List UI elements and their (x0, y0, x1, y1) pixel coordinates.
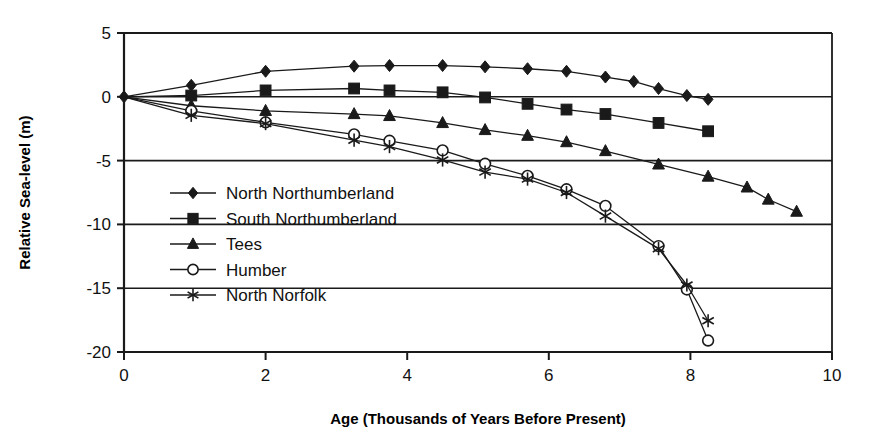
legend-item-tees[interactable]: Tees (170, 235, 262, 254)
asterisk-ray (708, 321, 714, 324)
legend-item-north-northumberland[interactable]: North Northumberland (170, 184, 394, 203)
series-north-northumberland (119, 60, 713, 106)
series-north-norfolk (124, 97, 714, 328)
chart-canvas: 50-5-10-15-200246810Age (Thousands of Ye… (0, 0, 885, 441)
marker-filled-diamond (480, 61, 490, 73)
x-axis-ticks: 0246810 (119, 352, 841, 385)
square-icon (260, 85, 271, 96)
marker-filled-diamond (682, 90, 692, 102)
marker-filled-diamond (562, 65, 572, 77)
marker-filled-diamond (654, 83, 664, 95)
diamond-icon (601, 71, 611, 83)
square-icon (349, 83, 360, 94)
diamond-icon (186, 79, 196, 91)
legend-label: Tees (226, 235, 262, 254)
y-axis-label: Relative Sea-level (m) (16, 115, 33, 269)
asterisk-ray (600, 216, 606, 219)
square-icon (561, 104, 572, 115)
marker-filled-diamond (523, 63, 533, 75)
x-tick-label-10: 10 (823, 366, 842, 385)
y-tick-label--20: -20 (86, 343, 111, 362)
asterisk-ray (605, 213, 611, 216)
marker-filled-triangle (187, 238, 198, 248)
asterisk-ray (479, 172, 485, 175)
x-tick-label-8: 8 (686, 366, 695, 385)
asterisk-ray (443, 157, 449, 160)
square-icon (480, 92, 491, 103)
triangle-icon (791, 205, 803, 216)
diamond-icon (188, 187, 197, 198)
x-tick-label-2: 2 (261, 366, 270, 385)
triangle-icon (762, 193, 774, 204)
x-tick-label-4: 4 (402, 366, 411, 385)
y-tick-label--5: -5 (96, 152, 111, 171)
marker-filled-diamond (438, 60, 448, 72)
triangle-icon (187, 238, 198, 248)
legend-item-south-northumberland[interactable]: South Northumberland (170, 210, 397, 229)
marker-filled-triangle (348, 108, 360, 119)
marker-filled-diamond (629, 75, 639, 87)
legend: North NorthumberlandSouth Northumberland… (170, 184, 397, 305)
x-tick-label-6: 6 (544, 366, 553, 385)
marker-filled-diamond (261, 65, 271, 77)
legend-item-humber[interactable]: Humber (170, 261, 287, 280)
asterisk-ray (708, 317, 714, 320)
diamond-icon (654, 83, 664, 95)
asterisk-ray (348, 140, 354, 143)
series-south-northumberland (124, 83, 714, 137)
marker-filled-square (188, 213, 198, 223)
asterisk-ray (384, 147, 390, 150)
y-tick-label-0: 0 (102, 88, 111, 107)
diamond-icon (682, 90, 692, 102)
asterisk-ray (702, 321, 708, 324)
legend-label: Humber (226, 261, 287, 280)
marker-filled-square (561, 104, 572, 115)
marker-filled-triangle (791, 205, 803, 216)
y-tick-label--10: -10 (86, 215, 111, 234)
diamond-icon (438, 60, 448, 72)
diamond-icon (385, 60, 395, 72)
square-icon (188, 213, 198, 223)
diamond-icon (349, 60, 359, 72)
sea-level-chart-figure: 50-5-10-15-200246810Age (Thousands of Ye… (0, 0, 885, 441)
square-icon (437, 87, 448, 98)
square-icon (653, 118, 664, 129)
marker-filled-square (703, 126, 714, 137)
marker-filled-diamond (703, 93, 713, 105)
series-humber (124, 97, 713, 346)
x-tick-label-0: 0 (119, 366, 128, 385)
diamond-icon (261, 65, 271, 77)
circle-icon (188, 264, 198, 274)
asterisk-ray (600, 213, 606, 216)
marker-filled-square (260, 85, 271, 96)
marker-filled-square (653, 118, 664, 129)
marker-filled-diamond (601, 71, 611, 83)
marker-filled-square (480, 92, 491, 103)
series-line (124, 89, 708, 132)
marker-filled-diamond (188, 187, 197, 198)
diamond-icon (629, 75, 639, 87)
marker-filled-diamond (349, 60, 359, 72)
marker-filled-triangle (384, 110, 396, 121)
triangle-icon (384, 110, 396, 121)
diamond-icon (480, 61, 490, 73)
square-icon (522, 98, 533, 109)
diamond-icon (562, 65, 572, 77)
marker-filled-diamond (385, 60, 395, 72)
legend-item-north-norfolk[interactable]: North Norfolk (170, 286, 327, 305)
marker-filled-square (349, 83, 360, 94)
marker-filled-diamond (186, 79, 196, 91)
diamond-icon (523, 63, 533, 75)
asterisk-ray (605, 216, 611, 219)
marker-filled-square (384, 85, 395, 96)
triangle-icon (348, 108, 360, 119)
marker-open-circle (188, 264, 198, 274)
series-line (124, 97, 797, 212)
marker-filled-square (437, 87, 448, 98)
square-icon (384, 85, 395, 96)
legend-label: North Norfolk (226, 286, 327, 305)
x-axis-label: Age (Thousands of Years Before Present) (330, 410, 626, 427)
y-tick-label--15: -15 (86, 279, 111, 298)
diamond-icon (703, 93, 713, 105)
marker-open-circle (703, 335, 714, 346)
